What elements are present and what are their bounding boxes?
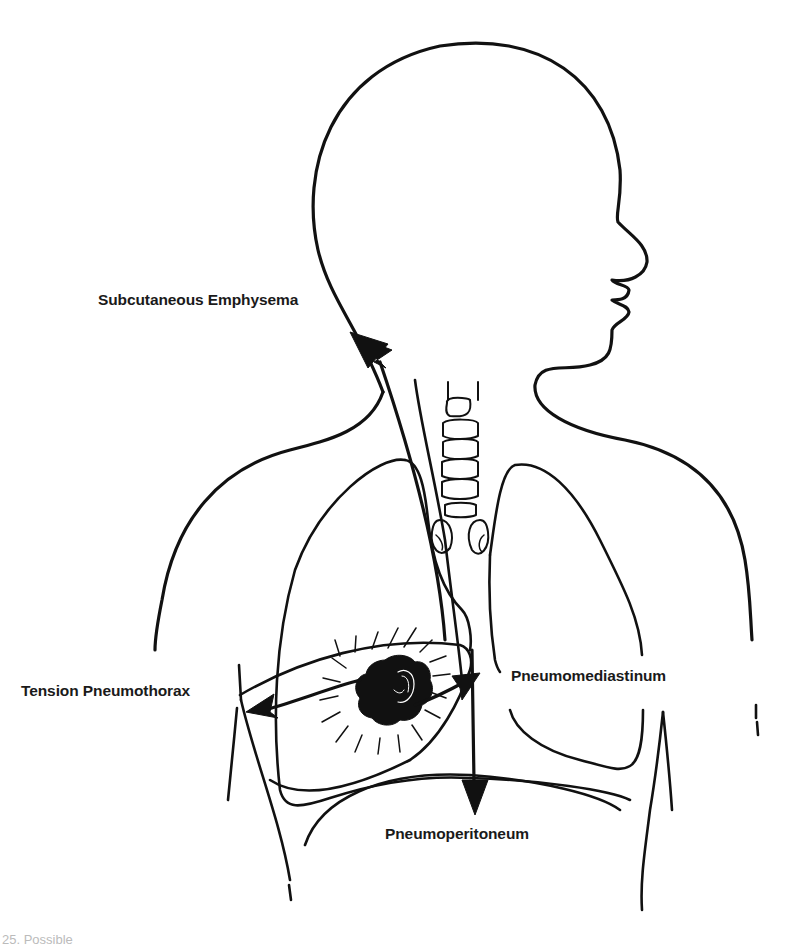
figure-caption: 25. Possible [2, 932, 73, 947]
right-chest-wall [642, 705, 758, 910]
arrow-tension-pneumothorax [246, 680, 360, 718]
left-chest-wall [228, 665, 291, 900]
label-pneumoperitoneum: Pneumoperitoneum [385, 825, 529, 843]
label-pneumomediastinum: Pneumomediastinum [511, 667, 666, 685]
head-outline [155, 43, 752, 650]
trachea [432, 382, 489, 554]
lesion-mass [356, 655, 433, 725]
left-lung [276, 380, 471, 805]
label-subcutaneous-emphysema: Subcutaneous Emphysema [98, 291, 298, 309]
label-tension-pneumothorax: Tension Pneumothorax [21, 682, 190, 700]
arrow-subcutaneous-emphysema [350, 332, 445, 640]
right-lung [489, 464, 643, 768]
